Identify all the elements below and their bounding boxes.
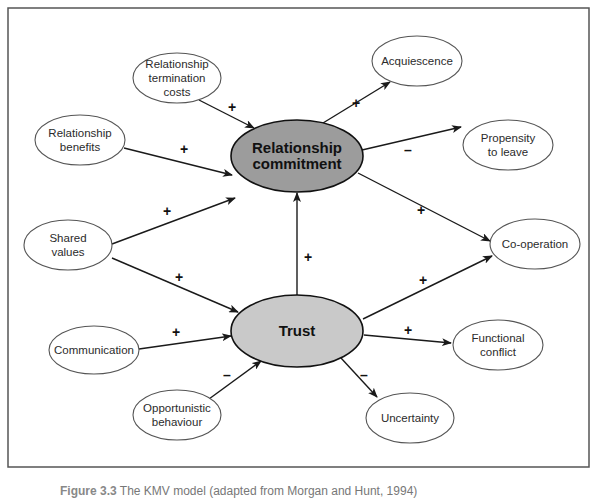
edge-trust-to-commitment: + <box>297 193 312 295</box>
node-label-line: Acquiescence <box>381 55 453 67</box>
node-benefits: Relationshipbenefits <box>35 115 125 165</box>
edge-termination-to-commitment: + <box>199 99 254 128</box>
node-label-line: Relationship <box>252 139 342 156</box>
node-functional: Functionalconflict <box>453 320 543 370</box>
construct-ellipse <box>133 390 221 440</box>
node-termination: Relationshipterminationcosts <box>133 53 221 103</box>
edge-sign-label: + <box>180 141 188 157</box>
node-communication: Communication <box>49 326 139 374</box>
construct-ellipse <box>453 320 543 370</box>
node-label-line: Co-operation <box>502 238 568 250</box>
edge-sign-label: + <box>419 272 427 288</box>
node-acquiescence: Acquiescence <box>372 36 462 86</box>
edge-shared-to-trust: + <box>112 258 238 312</box>
construct-ellipse <box>24 220 112 270</box>
node-label-line: Trust <box>279 322 316 339</box>
figure-caption: Figure 3.3 The KMV model (adapted from M… <box>60 484 417 498</box>
node-propensity: Propensityto leave <box>463 120 553 170</box>
figure-label: Figure 3.3 <box>60 484 117 498</box>
node-label-line: termination <box>149 72 206 84</box>
edge-trust-to-uncertainty: – <box>341 358 377 397</box>
edge-sign-label: – <box>360 367 368 383</box>
arrow-icon <box>112 258 238 312</box>
node-label-line: Shared <box>49 232 86 244</box>
arrow-icon <box>199 100 254 128</box>
arrow-icon <box>124 148 232 175</box>
node-label-line: to leave <box>488 146 528 158</box>
edge-sign-label: + <box>163 203 171 219</box>
edge-sign-label: + <box>304 249 312 265</box>
node-cooperation: Co-operation <box>490 219 580 269</box>
node-label-line: Relationship <box>48 127 111 139</box>
node-label-line: values <box>51 246 84 258</box>
arrow-icon <box>112 198 235 244</box>
node-label-line: benefits <box>60 141 101 153</box>
arrow-icon <box>363 256 492 319</box>
edge-communication-to-trust: + <box>139 324 231 349</box>
edge-trust-to-functional: + <box>364 322 451 343</box>
edge-shared-to-commitment: + <box>112 198 235 244</box>
edge-commitment-to-acquiescence: + <box>323 82 390 123</box>
construct-ellipse <box>35 115 125 165</box>
node-shared: Sharedvalues <box>24 220 112 270</box>
edge-sign-label: + <box>352 95 360 111</box>
edge-benefits-to-commitment: + <box>124 141 232 175</box>
node-label-line: behaviour <box>152 416 203 428</box>
edge-opportunistic-to-trust: – <box>209 361 261 399</box>
node-trust: Trust <box>231 295 363 367</box>
node-label-line: Relationship <box>145 58 208 70</box>
arrow-icon <box>341 358 377 397</box>
node-label-line: Communication <box>54 344 134 356</box>
node-uncertainty: Uncertainty <box>366 393 454 443</box>
edge-sign-label: + <box>228 99 236 115</box>
node-label-line: commitment <box>252 155 341 172</box>
nodes-layer: RelationshipcommitmentTrustRelationshipt… <box>24 36 580 443</box>
node-label-line: Propensity <box>481 132 536 144</box>
node-label-line: Functional <box>471 332 524 344</box>
construct-ellipse <box>463 120 553 170</box>
node-label-line: conflict <box>480 346 517 358</box>
edge-sign-label: + <box>175 269 183 285</box>
edge-sign-label: + <box>172 324 180 340</box>
figure-caption-text: The KMV model (adapted from Morgan and H… <box>120 484 418 498</box>
node-label-line: Opportunistic <box>143 402 211 414</box>
node-opportunistic: Opportunisticbehaviour <box>133 390 221 440</box>
edge-commitment-to-propensity: – <box>362 127 461 158</box>
edge-sign-label: + <box>404 322 412 338</box>
arrow-icon <box>209 361 261 399</box>
arrow-icon <box>139 336 231 349</box>
edge-sign-label: + <box>417 202 425 218</box>
node-label-line: Uncertainty <box>381 412 439 424</box>
edge-sign-label: – <box>404 142 412 158</box>
edge-trust-to-cooperation: + <box>363 256 492 319</box>
edge-sign-label: – <box>223 367 231 383</box>
node-commitment: Relationshipcommitment <box>231 120 363 192</box>
node-label-line: costs <box>164 86 191 98</box>
edge-commitment-to-cooperation: + <box>358 173 490 241</box>
